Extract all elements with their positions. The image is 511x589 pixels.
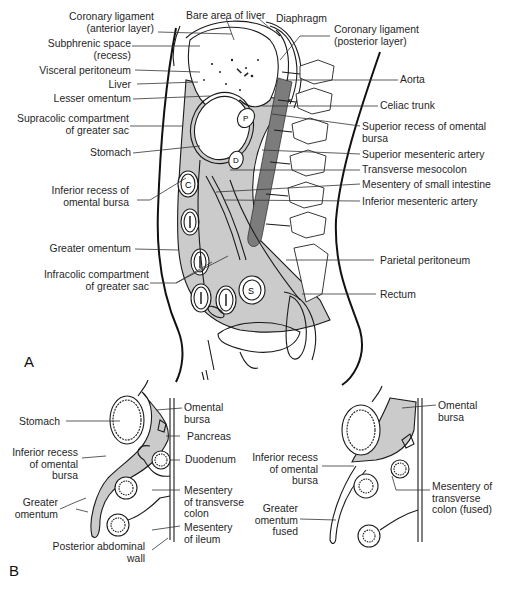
label-superior-recess-omental-bursa: Superior recess of omental bursa bbox=[362, 121, 486, 144]
duodenum-glyph: D bbox=[233, 156, 239, 165]
label-coronary-ligament-posterior: Coronary ligament (posterior layer) bbox=[334, 24, 419, 47]
label-stomach-b: Stomach bbox=[19, 416, 60, 428]
panel-b-right-drawing bbox=[300, 386, 436, 547]
label-infracolic-compartment: Infracolic compartment of greater sac bbox=[44, 269, 149, 292]
label-inferior-mesenteric-artery: Inferior mesenteric artery bbox=[362, 196, 478, 208]
label-lesser-omentum: Lesser omentum bbox=[54, 93, 131, 105]
label-rectum: Rectum bbox=[380, 289, 416, 301]
svg-text:S: S bbox=[248, 286, 254, 296]
label-posterior-abdominal-wall: Posterior abdominal wall bbox=[53, 541, 145, 564]
panel-letter-b: B bbox=[9, 562, 19, 579]
label-superior-mesenteric-artery: Superior mesenteric artery bbox=[362, 149, 484, 161]
label-duodenum: Duodenum bbox=[185, 454, 236, 466]
panel-b-left-drawing bbox=[60, 380, 182, 550]
label-inferior-recess-b-right: Inferior recess of omental bursa bbox=[252, 452, 318, 487]
panel-a-drawing: P D C S bbox=[130, 18, 398, 385]
label-greater-omentum-fused: Greater omentum fused bbox=[255, 503, 298, 538]
label-inferior-recess-omental-bursa-a: Inferior recess of omental bursa bbox=[52, 185, 129, 208]
label-bare-area-of-liver: Bare area of liver bbox=[186, 10, 265, 22]
panel-letter-a: A bbox=[24, 353, 34, 370]
label-diaphragm: Diaphragm bbox=[276, 13, 327, 25]
posterior-abdominal-wall bbox=[336, 52, 380, 385]
pancreas-glyph: P bbox=[243, 114, 248, 123]
label-transverse-mesocolon: Transverse mesocolon bbox=[362, 164, 467, 176]
label-omental-bursa-b-left: Omental bursa bbox=[184, 402, 223, 425]
label-parietal-peritoneum: Parietal peritoneum bbox=[380, 255, 470, 267]
label-inferior-recess-b-left: Inferior recess of omental bursa bbox=[12, 447, 78, 482]
label-stomach-a: Stomach bbox=[90, 147, 131, 159]
label-liver: Liver bbox=[108, 79, 131, 91]
liver bbox=[188, 27, 278, 109]
label-aorta: Aorta bbox=[400, 74, 425, 86]
label-subphrenic-space: Subphrenic space (recess) bbox=[48, 38, 131, 61]
label-pancreas: Pancreas bbox=[187, 431, 231, 443]
label-celiac-trunk: Celiac trunk bbox=[380, 100, 435, 112]
label-coronary-ligament-anterior: Coronary ligament (anterior layer) bbox=[69, 11, 154, 34]
label-mesentery-small-intestine: Mesentery of small intestine bbox=[362, 179, 491, 191]
label-mesentery-transverse-colon-fused: Mesentery of transverse colon (fused) bbox=[432, 481, 492, 516]
label-mesentery-transverse-colon: Mesentery of transverse colon bbox=[184, 485, 244, 520]
label-omental-bursa-b-right: Omental bursa bbox=[438, 400, 477, 423]
svg-text:C: C bbox=[185, 180, 192, 190]
label-mesentery-of-ileum: Mesentery of ileum bbox=[184, 522, 233, 545]
label-greater-omentum-b-left: Greater omentum bbox=[15, 497, 58, 520]
label-supracolic-compartment: Supracolic compartment of greater sac bbox=[17, 113, 129, 136]
label-greater-omentum-a: Greater omentum bbox=[50, 243, 131, 255]
label-visceral-peritoneum: Visceral peritoneum bbox=[39, 65, 131, 77]
